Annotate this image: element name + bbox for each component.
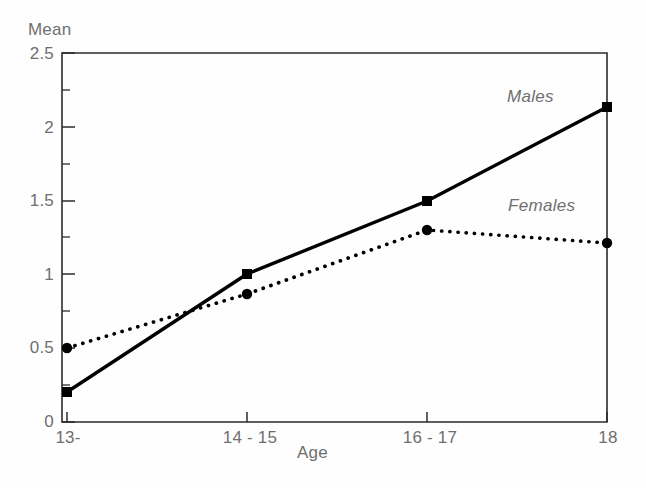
series-label-males: Males <box>507 87 554 107</box>
x-tick-label-13: 13- <box>42 428 94 448</box>
data-point-females-3 <box>602 238 612 248</box>
y-axis-title: Mean <box>28 20 71 40</box>
data-point-females-2 <box>422 225 432 235</box>
y-tick-label-2-5: 2.5 <box>8 44 54 64</box>
data-point-males-0 <box>62 387 72 397</box>
y-tick-label-0-5: 0.5 <box>8 338 54 358</box>
x-tick-label-14-15: 14 - 15 <box>200 428 300 448</box>
chart-plot-area <box>0 0 646 488</box>
x-tick-label-16-17: 16 - 17 <box>380 428 480 448</box>
series-females <box>62 225 612 353</box>
y-tick-label-1: 1 <box>8 265 54 285</box>
chart-screenshot: Mean Age 2.5 2 1.5 1 0.5 0 13- 14 - 15 1… <box>0 0 646 488</box>
data-point-males-2 <box>422 196 432 206</box>
series-males <box>62 102 612 397</box>
data-point-females-0 <box>62 343 72 353</box>
y-tick-label-1-5: 1.5 <box>8 191 54 211</box>
x-tick-label-18: 18 <box>582 428 634 448</box>
data-point-males-1 <box>242 269 252 279</box>
series-label-females: Females <box>508 196 575 216</box>
x-axis-title: Age <box>297 443 328 463</box>
x-axis-ticks <box>67 412 607 422</box>
y-tick-label-2: 2 <box>8 118 54 138</box>
line-chart: Mean Age 2.5 2 1.5 1 0.5 0 13- 14 - 15 1… <box>0 0 646 488</box>
data-point-females-1 <box>242 289 252 299</box>
y-axis-minor-ticks <box>62 90 70 385</box>
data-point-males-3 <box>602 102 612 112</box>
